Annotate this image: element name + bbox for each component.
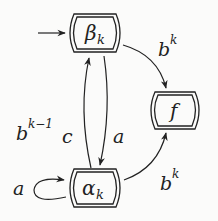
edge-alpha-to-beta-label: b xyxy=(16,122,28,144)
edge-alpha-self-loop xyxy=(34,179,66,199)
node-f: f xyxy=(151,92,199,129)
edge-alpha-to-f-sup: k xyxy=(172,167,179,181)
edge-alpha-self-loop-label: a xyxy=(13,177,24,199)
edge-alpha-to-beta xyxy=(84,58,91,168)
edge-beta-to-f-sup: k xyxy=(170,33,177,47)
node-beta-subscript: k xyxy=(97,32,105,47)
edge-beta-to-alpha xyxy=(100,56,107,165)
node-beta-k: β k xyxy=(70,14,120,52)
node-alpha-subscript: k xyxy=(96,187,104,202)
node-alpha-k: α k xyxy=(70,169,120,207)
edge-alpha-to-beta-suffix: c xyxy=(62,125,73,147)
edge-beta-to-alpha-label: a xyxy=(113,125,124,147)
edge-alpha-to-f-label: b xyxy=(160,172,172,194)
node-beta-label: β xyxy=(84,21,97,45)
edge-alpha-to-beta-sup: k−1 xyxy=(28,117,53,131)
edge-beta-to-f-label: b xyxy=(158,38,170,60)
node-alpha-label: α xyxy=(82,176,96,200)
state-diagram: β k f α k b k b k−1 c a a b k xyxy=(0,0,218,221)
node-f-label: f xyxy=(168,99,181,123)
